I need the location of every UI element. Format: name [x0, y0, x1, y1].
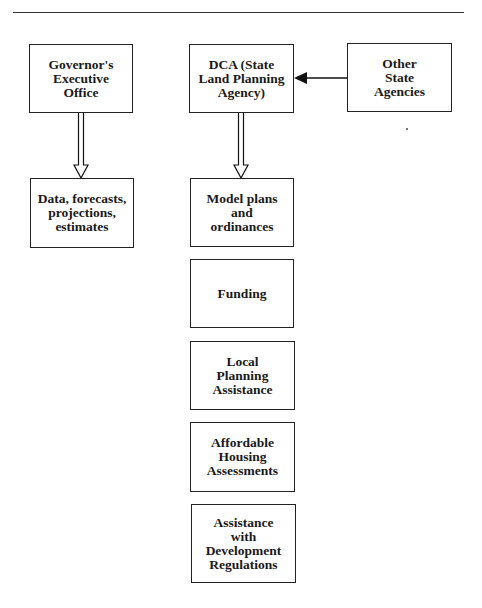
node-model-plans: Model plans and ordinances: [190, 178, 294, 247]
node-data-forecasts: Data, forecasts, projections, estimates: [30, 178, 134, 248]
node-label: Assistance with Development Regulations: [206, 516, 282, 572]
node-affordable-housing-assessments: Affordable Housing Assessments: [190, 422, 295, 492]
node-local-planning-assistance: Local Planning Assistance: [190, 341, 295, 410]
arrow-governor-to-data: [74, 112, 88, 178]
node-label: Other State Agencies: [374, 57, 425, 99]
arrow-other-to-dca: [294, 72, 347, 84]
node-governors-executive-office: Governor's Executive Office: [29, 44, 133, 113]
node-label: DCA (State Land Planning Agency): [199, 58, 285, 100]
node-label: Affordable Housing Assessments: [207, 436, 278, 478]
node-label: Funding: [218, 287, 267, 301]
node-label: Data, forecasts, projections, estimates: [38, 192, 127, 234]
stray-dot: [406, 128, 408, 130]
arrow-dca-to-model: [234, 112, 248, 178]
node-other-state-agencies: Other State Agencies: [347, 43, 452, 112]
node-label: Model plans and ordinances: [207, 192, 278, 234]
node-label: Local Planning Assistance: [213, 355, 273, 397]
node-funding: Funding: [190, 259, 294, 328]
node-dca-state-land-planning-agency: DCA (State Land Planning Agency): [189, 44, 294, 113]
node-label: Governor's Executive Office: [48, 58, 113, 100]
node-assistance-development-regulations: Assistance with Development Regulations: [191, 504, 296, 583]
